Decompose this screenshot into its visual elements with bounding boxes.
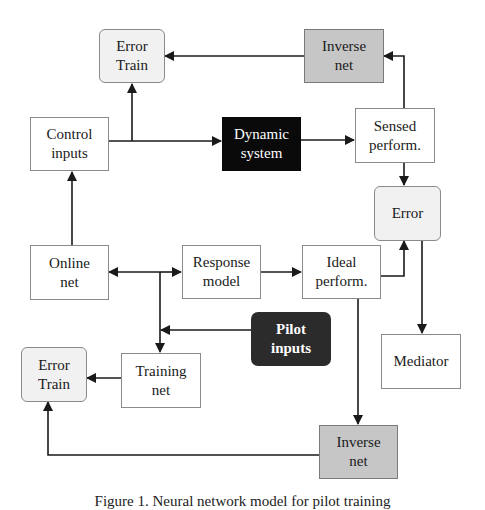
- error-box: Error: [374, 186, 441, 241]
- inverse-net-bottom-box: Inverse net: [319, 425, 398, 479]
- edge-sensed-to-inverse: [384, 56, 404, 108]
- response-model-box: Response model: [182, 245, 261, 299]
- error-train-top-box: Error Train: [99, 29, 165, 83]
- control-inputs-box: Control inputs: [30, 117, 109, 171]
- figure-caption: Figure 1. Neural network model for pilot…: [0, 493, 485, 510]
- training-net-box: Training net: [121, 353, 201, 408]
- sensed-perform-box: Sensed perform.: [355, 108, 435, 163]
- error-train-bottom-box: Error Train: [21, 347, 87, 402]
- pilot-inputs-box: Pilot inputs: [251, 312, 331, 366]
- online-net-box: Online net: [30, 245, 109, 300]
- edge-inverse-to-error-train-bottom: [48, 402, 319, 455]
- dynamic-system-box: Dynamic system: [222, 117, 301, 171]
- edge-ideal-to-error: [380, 241, 404, 276]
- ideal-perform-box: Ideal perform.: [302, 245, 381, 299]
- inverse-net-top-box: Inverse net: [304, 29, 384, 83]
- mediator-box: Mediator: [381, 334, 461, 389]
